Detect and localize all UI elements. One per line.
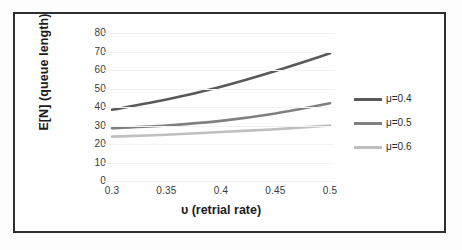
gridline: [102, 70, 334, 71]
legend-item[interactable]: μ=0.4: [354, 87, 442, 111]
gridline: [102, 181, 334, 182]
y-tick-label: 80: [66, 28, 106, 38]
series-line: [112, 53, 330, 109]
legend-swatch-icon: [354, 98, 382, 101]
x-axis-ticks: 0.30.350.40.450.5: [112, 185, 330, 199]
y-tick-label: 10: [66, 158, 106, 168]
x-tick-label: 0.5: [310, 185, 350, 197]
y-tick-label: 60: [66, 65, 106, 75]
gridline: [102, 52, 334, 53]
legend-item-label: μ=0.4: [386, 94, 412, 104]
gridline: [102, 107, 334, 108]
legend-item-label: μ=0.6: [386, 142, 412, 152]
gridline: [102, 89, 334, 90]
x-tick-label: 0.3: [92, 185, 132, 197]
legend-item[interactable]: μ=0.5: [354, 111, 442, 135]
x-tick-label: 0.45: [256, 185, 296, 197]
legend-swatch-icon: [354, 146, 382, 149]
figure-container: E[N] (queue length) 01020304050607080 0.…: [0, 0, 462, 250]
legend: μ=0.4μ=0.5μ=0.6: [354, 87, 442, 159]
gridline: [102, 33, 334, 34]
x-axis-label: υ (retrial rate): [112, 203, 330, 217]
y-axis-ticks: 01020304050607080: [66, 33, 106, 181]
x-tick-label: 0.4: [201, 185, 241, 197]
y-tick-label: 70: [66, 47, 106, 57]
legend-item-label: μ=0.5: [386, 118, 412, 128]
y-tick-label: 30: [66, 121, 106, 131]
figure-border: E[N] (queue length) 01020304050607080 0.…: [13, 12, 446, 233]
legend-item[interactable]: μ=0.6: [354, 135, 442, 159]
gridline: [102, 144, 334, 145]
gridline: [102, 163, 334, 164]
gridline: [102, 126, 334, 127]
plot-area: [112, 33, 330, 181]
x-tick-label: 0.35: [147, 185, 187, 197]
legend-swatch-icon: [354, 122, 382, 125]
y-tick-label: 50: [66, 84, 106, 94]
y-axis-label: E[N] (queue length): [37, 0, 51, 152]
line-chart: E[N] (queue length) 01020304050607080 0.…: [16, 15, 445, 232]
figure-border-inner: E[N] (queue length) 01020304050607080 0.…: [15, 14, 444, 231]
y-tick-label: 40: [66, 102, 106, 112]
y-tick-label: 20: [66, 139, 106, 149]
